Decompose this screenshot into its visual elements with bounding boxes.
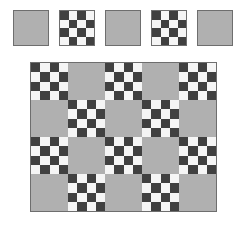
grid-tile-r1-c4[interactable] xyxy=(179,100,216,137)
checker-cell-light xyxy=(77,119,86,128)
checker-cell-dark xyxy=(161,100,170,109)
checker-cell-light xyxy=(151,119,160,128)
checkerboard-tile-grid xyxy=(31,137,68,174)
checker-cell-dark xyxy=(198,82,207,91)
checker-cell-light xyxy=(31,91,40,100)
grid-tile-r1-c2[interactable] xyxy=(105,100,142,137)
tile-palette-row xyxy=(13,10,234,48)
checker-cell-dark xyxy=(68,174,77,183)
checker-cell-dark xyxy=(31,137,40,146)
checker-cell-dark xyxy=(124,82,133,91)
checker-cell-dark xyxy=(31,63,40,72)
checker-cell-light xyxy=(161,202,170,211)
checker-cell-light xyxy=(114,156,123,165)
checkerboard-tile-grid xyxy=(179,63,216,100)
checker-cell-dark xyxy=(188,165,197,174)
grid-tile-r3-c3[interactable] xyxy=(142,174,179,211)
checker-cell-dark xyxy=(179,137,188,146)
main-tiling-grid xyxy=(30,62,217,212)
checker-cell-light xyxy=(31,165,40,174)
checker-cell-light xyxy=(198,165,207,174)
checker-cell-dark xyxy=(151,109,160,118)
checker-cell-dark xyxy=(87,193,96,202)
checker-cell-light xyxy=(207,82,216,91)
checker-cell-light xyxy=(142,109,151,118)
checker-cell-light xyxy=(87,128,96,137)
palette-tile-4[interactable] xyxy=(197,10,233,46)
checker-cell-dark xyxy=(86,20,95,29)
checkerboard-tile-grid xyxy=(105,137,142,174)
checker-cell-light xyxy=(142,128,151,137)
checker-cell-dark xyxy=(198,156,207,165)
grid-tile-r2-c0[interactable] xyxy=(31,137,68,174)
checker-cell-light xyxy=(69,11,78,20)
grid-tile-r3-c1[interactable] xyxy=(68,174,105,211)
checker-cell-dark xyxy=(105,63,114,72)
checker-cell-light xyxy=(133,156,142,165)
plain-gray-tile-grid xyxy=(68,63,105,100)
checker-cell-light xyxy=(114,137,123,146)
grid-tile-r2-c2[interactable] xyxy=(105,137,142,174)
checker-cell-dark xyxy=(151,183,160,192)
checker-cell-dark xyxy=(96,128,105,137)
checker-cell-dark xyxy=(77,28,86,37)
grid-tile-r3-c0[interactable] xyxy=(31,174,68,211)
plain-gray-tile-palette xyxy=(106,11,140,45)
checker-cell-dark xyxy=(151,128,160,137)
checker-cell-dark xyxy=(178,37,187,46)
palette-tile-3[interactable] xyxy=(151,10,187,46)
grid-tile-r2-c1[interactable] xyxy=(68,137,105,174)
checker-cell-dark xyxy=(87,119,96,128)
checker-cell-dark xyxy=(40,72,49,81)
plain-gray-tile-grid xyxy=(68,137,105,174)
grid-tile-r1-c3[interactable] xyxy=(142,100,179,137)
grid-tile-r0-c3[interactable] xyxy=(142,63,179,100)
checker-cell-light xyxy=(40,156,49,165)
checker-cell-dark xyxy=(170,183,179,192)
checker-cell-light xyxy=(60,20,69,29)
checker-cell-light xyxy=(31,72,40,81)
checker-cell-light xyxy=(207,137,216,146)
checker-cell-dark xyxy=(152,11,161,20)
checker-cell-dark xyxy=(114,91,123,100)
grid-tile-r3-c4[interactable] xyxy=(179,174,216,211)
grid-tile-r0-c1[interactable] xyxy=(68,63,105,100)
checker-cell-dark xyxy=(133,72,142,81)
checker-cell-dark xyxy=(207,91,216,100)
checkerboard-tile-grid xyxy=(31,63,68,100)
checkerboard-tile-grid xyxy=(68,174,105,211)
grid-tile-r2-c4[interactable] xyxy=(179,137,216,174)
checker-cell-light xyxy=(188,156,197,165)
checker-cell-light xyxy=(96,119,105,128)
checker-cell-dark xyxy=(142,119,151,128)
checker-cell-light xyxy=(161,11,170,20)
palette-tile-1[interactable] xyxy=(59,10,95,46)
grid-tile-r0-c0[interactable] xyxy=(31,63,68,100)
checker-cell-light xyxy=(86,11,95,20)
palette-tile-0[interactable] xyxy=(13,10,49,46)
checker-cell-light xyxy=(77,37,86,46)
checker-cell-light xyxy=(142,202,151,211)
palette-tile-2[interactable] xyxy=(105,10,141,46)
checker-cell-light xyxy=(114,63,123,72)
grid-tile-r3-c2[interactable] xyxy=(105,174,142,211)
checkerboard-tile-grid xyxy=(68,100,105,137)
checker-cell-dark xyxy=(50,156,59,165)
checker-cell-dark xyxy=(59,91,68,100)
checker-cell-dark xyxy=(142,100,151,109)
grid-tile-r2-c3[interactable] xyxy=(142,137,179,174)
checker-cell-light xyxy=(77,20,86,29)
checker-cell-light xyxy=(124,91,133,100)
grid-tile-r1-c0[interactable] xyxy=(31,100,68,137)
checker-cell-dark xyxy=(188,72,197,81)
checker-cell-dark xyxy=(69,20,78,29)
checker-cell-dark xyxy=(179,156,188,165)
grid-tile-r0-c4[interactable] xyxy=(179,63,216,100)
checker-cell-light xyxy=(151,174,160,183)
checker-cell-dark xyxy=(96,109,105,118)
checker-cell-dark xyxy=(142,193,151,202)
plain-gray-tile-grid xyxy=(31,100,68,137)
grid-tile-r0-c2[interactable] xyxy=(105,63,142,100)
grid-tile-r1-c1[interactable] xyxy=(68,100,105,137)
checker-cell-light xyxy=(169,37,178,46)
